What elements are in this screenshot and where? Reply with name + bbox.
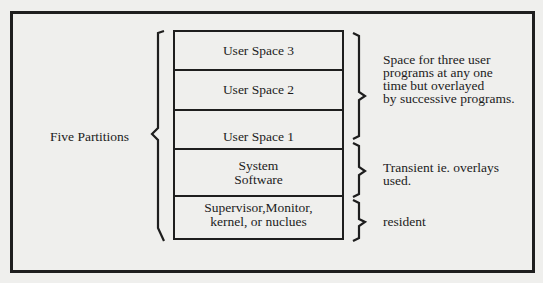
partition-user-space-3: User Space 3 bbox=[175, 32, 342, 71]
annotation-line: resident bbox=[383, 215, 426, 228]
user-space-brace-icon bbox=[353, 33, 365, 139]
memory-partition-stack: User Space 3 User Space 2 User Space 1 S… bbox=[173, 30, 344, 240]
annotation-line: used. bbox=[383, 174, 499, 187]
partition-label: kernel, or nuclues bbox=[210, 215, 306, 229]
annotation-line: by successive programs. bbox=[383, 92, 515, 105]
transient-annotation: Transient ie. overlays used. bbox=[383, 161, 499, 187]
partition-label: Software bbox=[234, 173, 283, 187]
partition-user-space-1: User Space 1 bbox=[175, 111, 342, 150]
partition-label: Supervisor,Monitor, bbox=[204, 201, 312, 215]
partition-label: User Space 3 bbox=[223, 44, 294, 58]
resident-brace-icon bbox=[353, 200, 365, 241]
partition-label: User Space 1 bbox=[223, 130, 294, 144]
partition-label: User Space 2 bbox=[223, 83, 294, 97]
user-space-annotation: Space for three user programs at any one… bbox=[383, 53, 515, 105]
partition-label: System bbox=[239, 159, 279, 173]
partition-system-software: System Software bbox=[175, 150, 342, 197]
left-brace-icon bbox=[152, 31, 164, 241]
partition-user-space-2: User Space 2 bbox=[175, 71, 342, 111]
transient-brace-icon bbox=[353, 143, 365, 197]
resident-annotation: resident bbox=[383, 215, 426, 228]
partition-supervisor: Supervisor,Monitor, kernel, or nuclues bbox=[175, 197, 342, 242]
